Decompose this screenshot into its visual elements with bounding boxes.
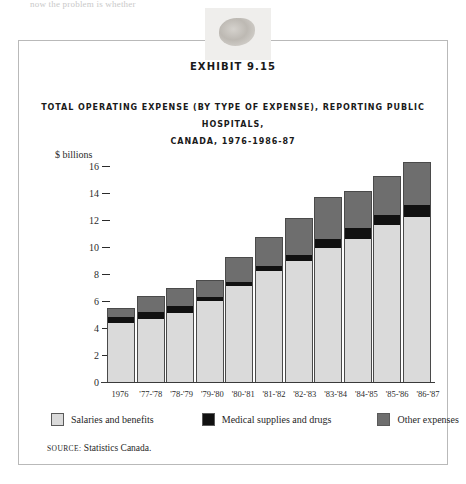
bar-segment-salaries xyxy=(167,313,193,382)
bar-slot xyxy=(137,167,163,383)
x-axis-label: '79-'80 xyxy=(199,389,225,399)
y-axis-tick-label: 2 xyxy=(94,350,99,361)
bar-segment-medical xyxy=(315,239,341,248)
bar-segment-other xyxy=(108,309,134,317)
chart-title-line-1: TOTAL OPERATING EXPENSE (BY TYPE OF EXPE… xyxy=(41,99,425,133)
chart-title-line-2: CANADA, 1976-1986-87 xyxy=(41,133,425,150)
stacked-bar[interactable] xyxy=(107,308,135,383)
y-axis-tick-label: 0 xyxy=(94,377,99,388)
x-axis-label: '85-'86 xyxy=(384,389,410,399)
plot-area: 0246810121416 xyxy=(55,167,435,383)
bar-segment-medical xyxy=(138,312,164,319)
bar-segment-salaries xyxy=(197,301,223,382)
bar-segment-medical xyxy=(374,215,400,226)
y-axis-tick: 8 xyxy=(55,269,99,281)
x-axis-label: '84-'85 xyxy=(353,389,379,399)
bar-slot xyxy=(403,167,429,383)
scan-artifact-smudge xyxy=(205,8,271,60)
stacked-bar[interactable] xyxy=(196,280,224,383)
x-axis-label: 1976 xyxy=(107,389,133,399)
y-axis-tick-label: 10 xyxy=(89,242,99,253)
legend-item[interactable]: Salaries and benefits xyxy=(51,413,154,426)
legend-label: Medical supplies and drugs xyxy=(222,414,332,425)
stacked-bar[interactable] xyxy=(314,197,342,383)
bar-segment-other xyxy=(167,289,193,307)
bar-segment-other xyxy=(315,198,341,239)
y-axis-unit-label: $ billions xyxy=(55,149,93,160)
exhibit-label: EXHIBIT 9.15 xyxy=(19,61,447,72)
bar-slot xyxy=(255,167,281,383)
bar-segment-other xyxy=(286,219,312,255)
chart-legend: Salaries and benefitsMedical supplies an… xyxy=(47,413,429,426)
source-note: SOURCE: Statistics Canada. xyxy=(47,443,151,453)
y-axis-tick: 6 xyxy=(55,296,99,308)
y-axis-tick-label: 14 xyxy=(89,188,99,199)
scan-artifact-blob xyxy=(219,18,255,46)
y-axis-tick: 4 xyxy=(55,323,99,335)
page-running-text: now the problem is whether xyxy=(30,0,136,9)
stacked-bar[interactable] xyxy=(166,288,194,383)
x-axis-label: '78-'79 xyxy=(169,389,195,399)
x-axis-labels: 1976'77-'78'78-'79'79-'80'80-'81'81-'82'… xyxy=(107,389,441,399)
bar-segment-salaries xyxy=(256,271,282,382)
bar-segment-other xyxy=(374,177,400,215)
legend-label: Salaries and benefits xyxy=(71,414,154,425)
source-label: SOURCE: xyxy=(47,444,81,453)
bar-slot xyxy=(225,167,251,383)
bar-segment-salaries xyxy=(404,217,430,382)
legend-swatch xyxy=(377,413,390,426)
bar-segment-other xyxy=(197,281,223,297)
legend-label: Other expenses xyxy=(397,414,458,425)
stacked-bar[interactable] xyxy=(137,296,165,383)
bar-segment-other xyxy=(404,163,430,205)
x-axis-label: '77-'78 xyxy=(138,389,164,399)
y-axis-tick-label: 12 xyxy=(89,215,99,226)
bar-segment-salaries xyxy=(138,319,164,382)
y-axis-tick: 16 xyxy=(55,161,99,173)
y-axis-tick-label: 8 xyxy=(94,269,99,280)
x-axis-label: '80-'81 xyxy=(230,389,256,399)
bar-segment-salaries xyxy=(374,225,400,382)
stacked-bar[interactable] xyxy=(373,176,401,383)
bar-slot xyxy=(373,167,399,383)
bar-segment-salaries xyxy=(345,239,371,382)
bar-segment-salaries xyxy=(226,286,252,382)
x-axis-label: '82-'83 xyxy=(292,389,318,399)
x-axis-label: '81-'82 xyxy=(261,389,287,399)
y-axis-tick: 2 xyxy=(55,350,99,362)
stacked-bar[interactable] xyxy=(225,257,253,383)
y-axis-tick: 12 xyxy=(55,215,99,227)
y-axis-tick-label: 4 xyxy=(94,323,99,334)
bar-slot xyxy=(344,167,370,383)
stacked-bar[interactable] xyxy=(344,191,372,383)
bar-segment-salaries xyxy=(315,248,341,382)
exhibit-box: EXHIBIT 9.15 TOTAL OPERATING EXPENSE (BY… xyxy=(18,40,448,465)
bar-slot xyxy=(107,167,133,383)
bar-slot xyxy=(196,167,222,383)
stacked-bar[interactable] xyxy=(403,162,431,383)
y-axis-tick: 14 xyxy=(55,188,99,200)
stacked-bar[interactable] xyxy=(255,237,283,383)
bar-segment-medical xyxy=(404,205,430,217)
bar-segment-medical xyxy=(345,228,371,239)
chart-title: TOTAL OPERATING EXPENSE (BY TYPE OF EXPE… xyxy=(41,99,425,150)
stacked-bar[interactable] xyxy=(285,218,313,383)
x-axis-line xyxy=(101,382,435,383)
bar-segment-other xyxy=(138,297,164,312)
y-axis-tick-label: 6 xyxy=(94,296,99,307)
bar-segment-salaries xyxy=(286,261,312,383)
bar-segment-other xyxy=(226,258,252,282)
legend-item[interactable]: Other expenses xyxy=(377,413,458,426)
x-axis-label: '83-'84 xyxy=(323,389,349,399)
bar-segment-salaries xyxy=(108,323,134,382)
legend-swatch xyxy=(51,413,64,426)
legend-item[interactable]: Medical supplies and drugs xyxy=(202,413,332,426)
y-axis-tick: 0 xyxy=(55,377,99,389)
y-axis-tick-label: 16 xyxy=(89,161,99,172)
bar-segment-other xyxy=(256,238,282,266)
source-text: Statistics Canada. xyxy=(84,443,152,453)
y-axis-tick: 10 xyxy=(55,242,99,254)
bar-group xyxy=(107,167,429,383)
bar-slot xyxy=(314,167,340,383)
bar-segment-other xyxy=(345,192,371,228)
